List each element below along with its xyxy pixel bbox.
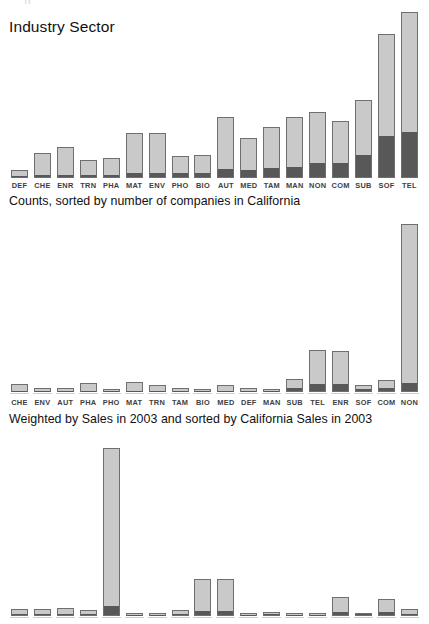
bar-segment-rest (287, 380, 302, 388)
x-axis-tick-label: MED (214, 398, 237, 407)
chart-panel-2: CHEENVAUTPHAPHOMATTRNTAMBIOMEDDEFMANSUBT… (0, 218, 429, 434)
bar-segment-california (195, 611, 210, 615)
bar-segment-rest (195, 580, 210, 611)
baseline-tick (102, 393, 121, 394)
bar-segment-california (127, 173, 142, 177)
bar-segment-california (12, 614, 27, 615)
x-axis-tick-label: MAN (283, 181, 306, 190)
bar-segment-california (173, 173, 188, 177)
stacked-bar (401, 12, 418, 178)
x-axis-tick-label: TAM (260, 181, 283, 190)
x-axis-tick-label: COM (329, 181, 352, 190)
bar-column (329, 12, 352, 178)
bar-column (54, 448, 77, 618)
stacked-bar (401, 224, 418, 392)
bar-column (77, 12, 100, 178)
stacked-bar (263, 127, 280, 178)
x-axis-tick-label: CHE (8, 398, 31, 407)
stacked-bar (149, 385, 166, 392)
bar-segment-rest (104, 159, 119, 174)
chart-panel-1: Industry Sector DEFCHEENRTRNPHAMATENVPHO… (0, 0, 429, 207)
bar-segment-rest (104, 449, 119, 606)
bar-group-1 (0, 12, 429, 178)
bar-segment-california (333, 163, 348, 177)
baseline-tick (331, 393, 350, 394)
baseline-tick (377, 393, 396, 394)
x-axis-tick-label: COM (375, 398, 398, 407)
bar-column (100, 224, 123, 394)
bar-segment-rest (310, 351, 325, 385)
baseline-tick (308, 617, 327, 618)
stacked-bar (217, 579, 234, 616)
baseline-tick (308, 393, 327, 394)
bar-segment-california (150, 615, 165, 616)
stacked-bar (57, 388, 74, 392)
stacked-bar (194, 389, 211, 392)
stacked-bar (103, 389, 120, 392)
x-axis-labels-1: DEFCHEENRTRNPHAMATENVPHOBIOAUTMEDTAMMANN… (0, 181, 429, 190)
x-axis-tick-label: MAT (123, 181, 146, 190)
bar-segment-california (310, 163, 325, 177)
bar-segment-california (58, 175, 73, 177)
stacked-bar (34, 609, 51, 616)
bar-column (54, 12, 77, 178)
chart-caption-1: Counts, sorted by number of companies in… (9, 194, 300, 208)
baseline-tick (56, 617, 75, 618)
stacked-bar (194, 155, 211, 178)
stacked-bar (263, 389, 280, 392)
bar-column (192, 12, 215, 178)
stacked-bar (355, 100, 372, 178)
bar-column (146, 12, 169, 178)
bar-column (169, 448, 192, 618)
bar-segment-rest (264, 128, 279, 168)
stacked-bar (80, 383, 97, 392)
stacked-bar (286, 613, 303, 616)
bar-column (214, 12, 237, 178)
stacked-bar (332, 597, 349, 616)
x-axis-tick-label: CHE (31, 181, 54, 190)
baseline-tick (193, 617, 212, 618)
bar-segment-california (287, 615, 302, 616)
baseline-tick (10, 617, 29, 618)
baseline-tick (216, 393, 235, 394)
x-axis-tick-label: MED (237, 181, 260, 190)
plot-area-3 (0, 448, 429, 618)
bar-segment-california (264, 168, 279, 177)
bar-column (237, 224, 260, 394)
bar-column (237, 12, 260, 178)
stacked-bar (286, 379, 303, 392)
bar-column (375, 448, 398, 618)
bar-column (260, 448, 283, 618)
bar-segment-california (287, 167, 302, 177)
baseline-tick (239, 393, 258, 394)
bar-column (77, 448, 100, 618)
bar-segment-california (218, 169, 233, 177)
bar-segment-california (356, 155, 371, 177)
plot-area-2 (0, 224, 429, 394)
bar-column (398, 224, 421, 394)
bar-column (123, 224, 146, 394)
bar-segment-california (402, 614, 417, 615)
bar-segment-rest (218, 118, 233, 169)
stacked-bar (378, 34, 395, 178)
bar-segment-rest (379, 35, 394, 136)
bar-segment-california (35, 175, 50, 177)
stacked-bar (332, 121, 349, 178)
stacked-bar (34, 388, 51, 392)
bar-segment-rest (287, 118, 302, 167)
bar-column (31, 448, 54, 618)
bar-segment-california (150, 173, 165, 177)
stacked-bar (80, 160, 97, 178)
x-axis-tick-label: PHO (169, 181, 192, 190)
x-axis-tick-label: SOF (375, 181, 398, 190)
stacked-bar (240, 138, 257, 178)
stacked-bar (172, 610, 189, 616)
bar-column (192, 224, 215, 394)
bar-segment-rest (127, 383, 142, 390)
stacked-bar (103, 448, 120, 616)
stacked-bar (172, 156, 189, 178)
bar-segment-rest (127, 134, 142, 173)
x-axis-tick-label: TRN (77, 181, 100, 190)
bar-segment-california (241, 615, 256, 616)
bar-column (169, 224, 192, 394)
